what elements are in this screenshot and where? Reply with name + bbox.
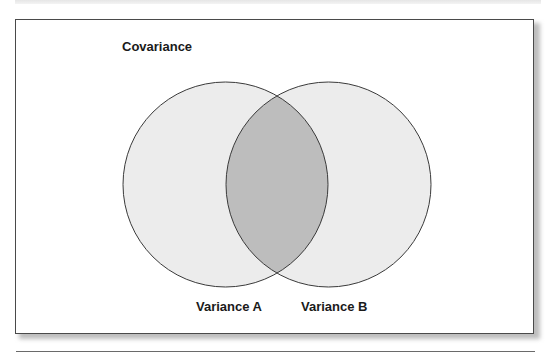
- variance-b-label: Variance B: [301, 300, 368, 313]
- venn-diagram: [0, 0, 557, 356]
- variance-a-label: Variance A: [196, 300, 262, 313]
- bottom-rule: [16, 351, 535, 352]
- covariance-label: Covariance: [122, 40, 192, 53]
